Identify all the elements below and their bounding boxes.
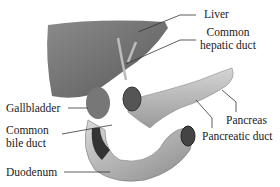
anatomy-diagram: Liver Common hepatic duct Gallbladder Co… xyxy=(0,0,280,187)
label-common-hepatic-duct-line2: hepatic duct xyxy=(198,39,258,52)
gallbladder-shape xyxy=(86,87,110,119)
label-gallbladder: Gallbladder xyxy=(6,102,60,115)
label-common-bile-duct-line2: bile duct xyxy=(6,137,46,150)
label-pancreatic-duct: Pancreatic duct xyxy=(202,130,273,143)
label-common-hepatic-duct-line1: Common xyxy=(198,26,258,39)
duodenum-cut-lower xyxy=(181,126,195,146)
label-liver: Liver xyxy=(204,8,229,21)
liver-shape xyxy=(47,21,168,98)
duodenum-cut-upper xyxy=(123,87,141,111)
label-pancreas: Pancreas xyxy=(226,114,267,127)
label-common-bile-duct-line1: Common xyxy=(6,124,49,137)
pancreas-shape xyxy=(128,68,233,128)
label-duodenum: Duodenum xyxy=(6,166,57,179)
